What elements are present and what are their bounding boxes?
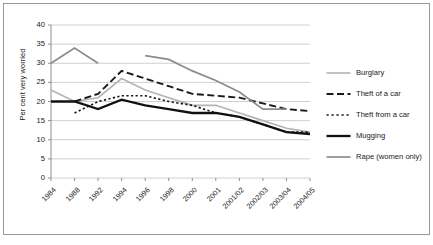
y-tick-label: 30: [25, 59, 45, 67]
line-solid-midgray-icon: [326, 152, 351, 162]
legend-label: Theft from a car: [356, 110, 410, 119]
line-dotted-black-icon: [326, 110, 351, 120]
series-line: [51, 48, 98, 63]
line-solid-gray-icon: [326, 68, 351, 78]
y-tick-label: 25: [25, 78, 45, 86]
line-solid-black-thick-icon: [326, 131, 351, 141]
legend-label: Theft of a car: [356, 89, 401, 98]
y-tick-label: 10: [25, 136, 45, 144]
chart-legend: BurglaryTheft of a carTheft from a carMu…: [326, 62, 430, 167]
legend-item: Theft of a car: [326, 83, 430, 104]
figure-container: Per cent very worried BurglaryTheft of a…: [0, 0, 433, 245]
line-dashed-black-icon: [326, 89, 351, 99]
y-tick-label: 40: [25, 21, 45, 29]
y-tick-label: 35: [25, 40, 45, 48]
y-tick-label: 5: [25, 155, 45, 163]
y-tick-label: 0: [25, 174, 45, 182]
y-tick-label: 15: [25, 117, 45, 125]
legend-item: Mugging: [326, 125, 430, 146]
y-tick-label: 20: [25, 98, 45, 106]
legend-item: Burglary: [326, 62, 430, 83]
legend-item: Rape (women only): [326, 146, 430, 167]
legend-label: Rape (women only): [356, 152, 422, 161]
legend-item: Theft from a car: [326, 104, 430, 125]
legend-label: Burglary: [356, 68, 384, 77]
legend-label: Mugging: [356, 131, 385, 140]
